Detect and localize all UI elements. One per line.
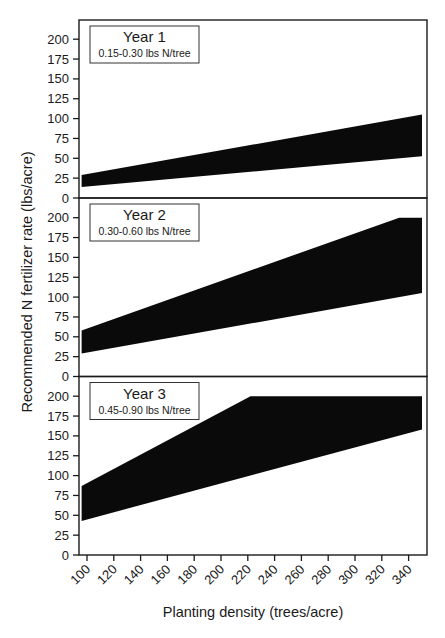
y-tick-label: 0 (62, 369, 69, 384)
y-tick-label: 125 (47, 91, 69, 106)
y-tick-label: 25 (55, 171, 69, 186)
y-tick-label: 200 (47, 32, 69, 47)
rate-band (82, 115, 422, 187)
x-axis: 100120140160180200220240260280300320340 (67, 555, 415, 587)
x-tick-label: 180 (174, 562, 200, 588)
x-tick-label: 160 (148, 562, 174, 588)
legend-subtitle: 0.45-0.90 lbs N/tree (98, 404, 190, 416)
panel-year-2: 0255075100125150175200Year 20.30-0.60 lb… (47, 198, 427, 384)
y-tick-label: 100 (47, 290, 69, 305)
y-tick-label: 150 (47, 71, 69, 86)
y-tick-label: 75 (55, 309, 69, 324)
x-tick-label: 220 (228, 562, 254, 588)
y-tick-label: 0 (62, 548, 69, 563)
legend-title: Year 2 (123, 206, 166, 223)
x-tick-label: 140 (121, 562, 147, 588)
y-tick-label: 75 (55, 488, 69, 503)
panel-legend: Year 20.30-0.60 lbs N/tree (90, 204, 199, 241)
y-tick-label: 0 (62, 191, 69, 206)
y-tick-label: 100 (47, 468, 69, 483)
y-tick-label: 25 (55, 349, 69, 364)
panel-legend: Year 10.15-0.30 lbs N/tree (90, 26, 199, 63)
y-tick-label: 75 (55, 131, 69, 146)
panel-legend: Year 30.45-0.90 lbs N/tree (90, 383, 199, 420)
legend-title: Year 3 (123, 385, 166, 402)
y-tick-label: 125 (47, 448, 69, 463)
y-tick-label: 50 (55, 329, 69, 344)
x-tick-label: 100 (67, 562, 93, 588)
y-tick-label: 175 (47, 52, 69, 67)
legend-subtitle: 0.30-0.60 lbs N/tree (98, 225, 190, 237)
fertilizer-rate-chart: 0255075100125150175200Year 10.15-0.30 lb… (0, 0, 445, 638)
x-tick-label: 120 (94, 562, 120, 588)
y-tick-label: 25 (55, 528, 69, 543)
panel-year-3: 0255075100125150175200Year 30.45-0.90 lb… (47, 377, 427, 563)
y-tick-label: 50 (55, 151, 69, 166)
x-tick-label: 300 (335, 562, 361, 588)
x-tick-label: 260 (282, 562, 308, 588)
chart-panels: 0255075100125150175200Year 10.15-0.30 lb… (47, 20, 427, 563)
y-tick-label: 175 (47, 230, 69, 245)
y-tick-label: 50 (55, 508, 69, 523)
x-tick-label: 340 (389, 562, 415, 588)
y-tick-label: 150 (47, 428, 69, 443)
y-tick-label: 200 (47, 389, 69, 404)
y-tick-label: 100 (47, 111, 69, 126)
y-tick-label: 200 (47, 210, 69, 225)
y-tick-label: 125 (47, 270, 69, 285)
y-tick-label: 150 (47, 250, 69, 265)
panel-year-1: 0255075100125150175200Year 10.15-0.30 lb… (47, 20, 427, 206)
legend-subtitle: 0.15-0.30 lbs N/tree (98, 47, 190, 59)
x-tick-label: 280 (308, 562, 334, 588)
x-tick-label: 200 (201, 562, 227, 588)
x-tick-label: 320 (362, 562, 388, 588)
y-tick-label: 175 (47, 409, 69, 424)
x-axis-title: Planting density (trees/acre) (163, 604, 344, 620)
legend-title: Year 1 (123, 28, 166, 45)
y-axis-title: Recommended N fertilizer rate (lbs/acre) (19, 151, 35, 412)
x-tick-label: 240 (255, 562, 281, 588)
